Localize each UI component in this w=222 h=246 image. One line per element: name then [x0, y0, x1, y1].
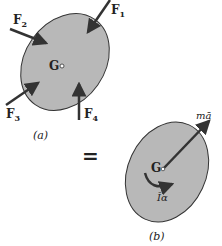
force-label-f4: F4 — [84, 107, 99, 123]
figure-a: F1 F2 F3 F4 G (a) — [2, 0, 127, 142]
inertia-vector-label: mā — [196, 110, 211, 121]
inertia-couple-label: Īα — [156, 192, 168, 203]
rigid-body-b — [110, 108, 222, 235]
equals-sign: = — [82, 144, 99, 168]
center-of-mass-point-b — [161, 167, 165, 171]
center-of-mass-label-b: G — [151, 161, 161, 175]
free-body-diagram: F1 F2 F3 F4 G (a) = mā G Īα (b) — [0, 0, 222, 246]
force-label-f1: F1 — [111, 3, 125, 19]
center-of-mass-label-a: G — [49, 59, 59, 73]
caption-a: (a) — [33, 129, 48, 142]
center-of-mass-point-a — [60, 64, 64, 68]
caption-b: (b) — [149, 230, 165, 243]
force-label-f3: F3 — [6, 107, 21, 123]
figure-b: mā G Īα (b) — [110, 108, 222, 243]
force-label-f2: F2 — [13, 13, 27, 29]
